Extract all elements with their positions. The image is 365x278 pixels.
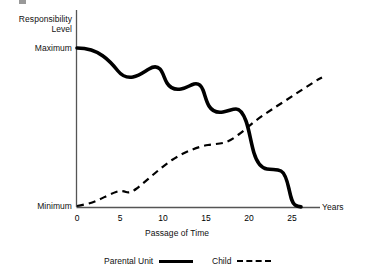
x-tick-label-10: 10 <box>153 213 173 223</box>
legend-label-child: Child <box>212 256 231 266</box>
y-axis-title-line1: Responsibility <box>6 14 72 24</box>
legend-swatch-dashed-line <box>237 259 271 263</box>
chart-figure: Responsibility Level Maximum Minimum 0 5… <box>0 0 365 278</box>
y-axis-title: Responsibility Level <box>6 14 72 34</box>
legend-item-child: Child <box>212 254 271 268</box>
x-tick-label-20: 20 <box>239 213 259 223</box>
legend-label-parental-unit: Parental Unit <box>104 256 153 266</box>
x-tick-label-5: 5 <box>110 213 130 223</box>
y-axis-max-label: Maximum <box>6 43 72 53</box>
x-tick-label-15: 15 <box>196 213 216 223</box>
chart-legend: Parental Unit Child <box>0 254 365 270</box>
legend-swatch-solid-line <box>159 259 193 263</box>
legend-item-parental-unit: Parental Unit <box>104 254 193 268</box>
x-tick-label-0: 0 <box>67 213 87 223</box>
y-axis-min-label: Minimum <box>4 201 72 211</box>
x-axis-unit-label: Years <box>322 202 344 212</box>
x-axis-title: Passage of Time <box>145 228 209 238</box>
y-axis-title-line2: Level <box>6 24 72 34</box>
x-tick-label-25: 25 <box>282 213 302 223</box>
series-line-child <box>77 78 322 207</box>
series-line-parental-unit <box>77 48 301 207</box>
